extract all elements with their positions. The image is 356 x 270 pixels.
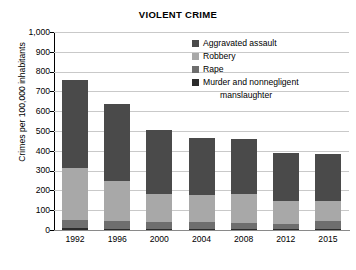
- legend-item[interactable]: Murder and nonnegligent: [192, 77, 352, 89]
- bar-segment: [273, 153, 299, 201]
- bar-group: [104, 32, 130, 230]
- legend-item[interactable]: Rape: [192, 64, 352, 76]
- legend-label-continuation: manslaughter: [220, 90, 356, 102]
- bar-segment: [315, 154, 341, 201]
- bar-segment: [273, 224, 299, 229]
- y-axis-tick-label: 200: [6, 186, 50, 195]
- legend-swatch-icon: [192, 79, 199, 86]
- bar-segment: [189, 195, 215, 222]
- bar-group: [62, 32, 88, 230]
- bar-segment: [273, 229, 299, 230]
- y-axis-tick-label: 500: [6, 127, 50, 136]
- y-axis-tick-label: 1,000: [6, 28, 50, 37]
- chart-legend: Aggravated assaultRobberyRapeMurder and …: [192, 38, 352, 102]
- y-axis-tick-label: 600: [6, 107, 50, 116]
- x-axis-tick-label: 2008: [220, 234, 268, 244]
- legend-label: Rape: [203, 64, 224, 76]
- x-axis-line: [54, 230, 350, 231]
- bar-segment: [231, 223, 257, 229]
- y-axis-tick-label: 300: [6, 166, 50, 175]
- bar-segment: [231, 229, 257, 230]
- x-axis-tick-label: 2012: [262, 234, 310, 244]
- bar-segment: [189, 138, 215, 195]
- x-axis-tick-label: 1996: [93, 234, 141, 244]
- legend-label: Robbery: [203, 51, 235, 63]
- y-axis-tick-label: 400: [6, 147, 50, 156]
- violent-crime-chart: VIOLENT CRIME Crimes per 100,000 inhabit…: [0, 0, 356, 270]
- legend-label: Aggravated assault: [203, 38, 277, 50]
- bar-segment: [231, 139, 257, 194]
- bar-segment: [315, 221, 341, 229]
- legend-label: Murder and nonnegligent: [203, 77, 299, 89]
- bar-segment: [104, 229, 130, 230]
- x-axis-tick-label: 2000: [135, 234, 183, 244]
- bar-segment: [315, 229, 341, 230]
- bar-segment: [189, 222, 215, 228]
- bar-segment: [146, 130, 172, 194]
- x-axis-tick-label: 1992: [51, 234, 99, 244]
- bar-segment: [104, 181, 130, 221]
- x-axis-tick-label: 2015: [304, 234, 352, 244]
- bar-segment: [231, 194, 257, 223]
- legend-item[interactable]: Aggravated assault: [192, 38, 352, 50]
- bar-segment: [315, 201, 341, 221]
- y-axis-tick-label: 900: [6, 48, 50, 57]
- legend-swatch-icon: [192, 66, 199, 73]
- bar-segment: [62, 168, 88, 220]
- x-axis-tick-label: 2004: [178, 234, 226, 244]
- legend-item[interactable]: Robbery: [192, 51, 352, 63]
- bar-segment: [62, 80, 88, 168]
- y-axis-tick: [50, 230, 54, 231]
- bar-segment: [273, 201, 299, 223]
- bar-segment: [104, 221, 130, 228]
- chart-title: VIOLENT CRIME: [0, 9, 356, 20]
- bar-segment: [146, 194, 172, 223]
- y-axis-tick-label: 700: [6, 87, 50, 96]
- y-axis-tick-label: 800: [6, 67, 50, 76]
- bar-segment: [62, 220, 88, 228]
- legend-swatch-icon: [192, 40, 199, 47]
- bar-group: [146, 32, 172, 230]
- bar-segment: [189, 229, 215, 230]
- bar-segment: [146, 229, 172, 230]
- y-axis-tick-label: 100: [6, 206, 50, 215]
- bar-segment: [62, 228, 88, 230]
- bar-segment: [146, 222, 172, 228]
- y-axis-title: Crimes per 100,000 inhabitants: [17, 12, 27, 192]
- bar-segment: [104, 104, 130, 181]
- legend-swatch-icon: [192, 53, 199, 60]
- y-axis-tick-label: 0: [6, 226, 50, 235]
